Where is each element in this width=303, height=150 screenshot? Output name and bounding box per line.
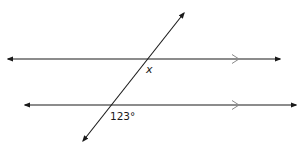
top-parallel-line [8, 55, 280, 64]
diagram-canvas: x 123° [0, 0, 303, 150]
bottom-parallel-line [25, 101, 296, 110]
angle-x-label: x [145, 63, 153, 76]
angle-123-label: 123° [110, 110, 135, 122]
